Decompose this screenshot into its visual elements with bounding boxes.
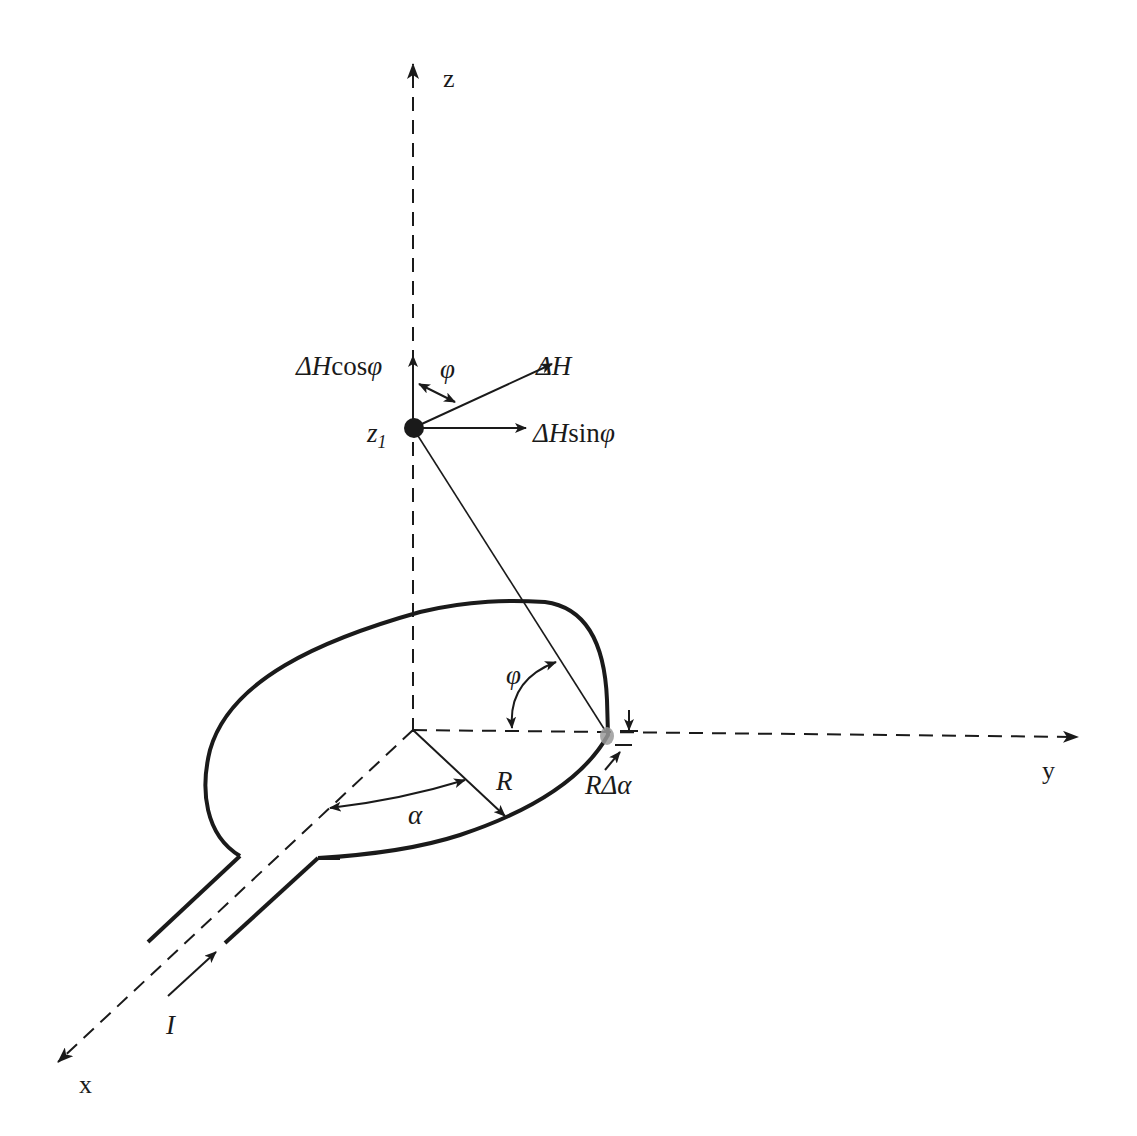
alpha-arc bbox=[330, 780, 465, 808]
field-point-z1 bbox=[404, 418, 424, 438]
current-label: I bbox=[166, 1012, 175, 1039]
current-arrow bbox=[168, 952, 216, 996]
diagram-drawing bbox=[0, 0, 1137, 1136]
radius-arrow bbox=[413, 730, 505, 816]
x-axis-label: x bbox=[79, 1072, 92, 1098]
arc-element-label: RΔα bbox=[585, 772, 632, 799]
y-axis bbox=[413, 730, 1078, 737]
dh-label: ΔH bbox=[536, 353, 571, 380]
y-axis-label: y bbox=[1042, 758, 1055, 784]
loop-field-diagram: z y x z1 ΔHcosφ φ ΔH ΔHsinφ φ R α RΔα I bbox=[0, 0, 1137, 1136]
current-element bbox=[600, 727, 614, 745]
phi-arc-top bbox=[419, 384, 455, 402]
lead-wire-left bbox=[148, 856, 240, 942]
z-axis-label: z bbox=[443, 66, 455, 92]
dh-cos-label: ΔHcosφ bbox=[296, 353, 382, 380]
phi-label-bottom: φ bbox=[506, 662, 521, 689]
element-arrow-bottom bbox=[605, 752, 620, 770]
dh-arrow bbox=[413, 364, 552, 428]
radius-label: R bbox=[496, 768, 513, 795]
x-axis bbox=[58, 730, 413, 1062]
dh-sin-label: ΔHsinφ bbox=[533, 420, 615, 447]
lead-wire-right bbox=[225, 858, 318, 943]
point-label-z1: z1 bbox=[367, 420, 387, 451]
alpha-label: α bbox=[408, 802, 422, 829]
phi-label-top: φ bbox=[440, 356, 455, 383]
